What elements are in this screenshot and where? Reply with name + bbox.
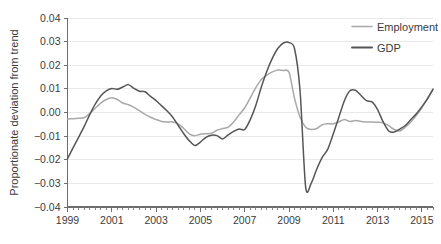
y-tick-label: 0.00 — [40, 106, 61, 118]
x-tick-label: 2007 — [233, 214, 257, 226]
legend-label-employment: Employment — [377, 21, 438, 33]
x-tick-label: 2003 — [144, 214, 168, 226]
y-tick-labels: 0.040.030.020.010.00−0.01−0.02−0.03−0.04 — [34, 12, 61, 213]
y-tick-label: −0.02 — [34, 153, 61, 165]
legend: EmploymentGDP — [352, 21, 438, 54]
x-tick-label: 2011 — [322, 214, 345, 226]
data-series — [68, 42, 434, 192]
series-line-gdp — [68, 42, 434, 192]
x-tick-label: 2001 — [100, 214, 124, 226]
y-tick-label: −0.01 — [34, 130, 61, 142]
x-tick-label: 2009 — [277, 214, 301, 226]
y-tick-label: −0.04 — [34, 201, 61, 213]
y-tick-label: 0.04 — [40, 12, 61, 24]
y-tick-label: 0.03 — [40, 35, 61, 47]
y-tick-label: −0.03 — [34, 177, 61, 189]
x-tick-label: 2013 — [366, 214, 390, 226]
legend-label-gdp: GDP — [377, 42, 401, 54]
y-tick-label: 0.02 — [40, 59, 61, 71]
x-tick-label: 2015 — [410, 214, 434, 226]
y-tick-label: 0.01 — [40, 82, 61, 94]
y-axis — [64, 18, 68, 207]
y-axis-title: Proportionate deviation from trend — [8, 29, 20, 195]
x-axis — [68, 207, 434, 212]
x-tick-label: 1999 — [56, 214, 80, 226]
x-tick-label: 2005 — [189, 214, 213, 226]
series-line-employment — [68, 70, 434, 136]
x-tick-labels: 199920012003200520072009201120132015 — [56, 214, 434, 226]
line-chart: 0.040.030.020.010.00−0.01−0.02−0.03−0.04… — [0, 0, 441, 244]
chart-page: 0.040.030.020.010.00−0.01−0.02−0.03−0.04… — [0, 0, 441, 244]
